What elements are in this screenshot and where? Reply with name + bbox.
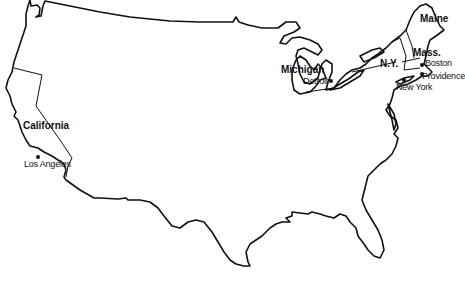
- label-new-york: New York: [396, 82, 432, 92]
- label-mass: Mass.: [413, 47, 441, 58]
- label-california: California: [23, 120, 69, 131]
- detroit-dot: [329, 79, 333, 83]
- boston-dot: [420, 63, 424, 67]
- label-ny: N.Y.: [380, 58, 398, 69]
- label-michigan: Michigan: [281, 64, 324, 75]
- us-outline: [6, 0, 444, 266]
- mass-border: [402, 58, 420, 62]
- ct-border: [404, 68, 420, 70]
- label-los-angeles: Los Angeles: [24, 159, 71, 169]
- label-boston: Boston: [425, 58, 452, 68]
- label-providence: Providence: [422, 71, 465, 81]
- label-detroit: Detroit: [303, 76, 328, 86]
- chesapeake-bay: [388, 104, 396, 130]
- label-maine: Maine: [420, 13, 448, 24]
